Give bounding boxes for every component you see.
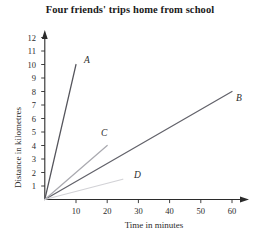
axis-lines	[42, 30, 249, 202]
y-tick-label-12: 12	[16, 33, 36, 43]
plot-area	[0, 0, 260, 240]
y-axis-label: Distance in kilometres	[13, 107, 23, 188]
x-tick-label-20: 20	[96, 206, 118, 216]
x-tick-label-10: 10	[65, 206, 87, 216]
y-tick-label-10: 10	[16, 60, 36, 70]
x-tick-label-40: 40	[159, 206, 181, 216]
x-axis-label: Time in minutes	[64, 220, 244, 230]
series-label-d: D	[134, 170, 141, 180]
series-line-a	[45, 65, 76, 200]
x-axis-arrowhead	[240, 197, 249, 203]
y-tick-label-8: 8	[20, 87, 36, 97]
series-label-b: B	[236, 93, 242, 103]
x-tick-label-50: 50	[190, 206, 212, 216]
y-tick-label-9: 9	[20, 73, 36, 83]
series-line-b	[45, 92, 232, 200]
x-tick-label-60: 60	[221, 206, 243, 216]
x-tick-label-30: 30	[127, 206, 149, 216]
series-label-c: C	[101, 128, 107, 138]
series-label-a: A	[84, 55, 90, 65]
chart-figure: Four friends' trips home from school	[0, 0, 260, 240]
y-tick-label-11: 11	[16, 46, 36, 56]
